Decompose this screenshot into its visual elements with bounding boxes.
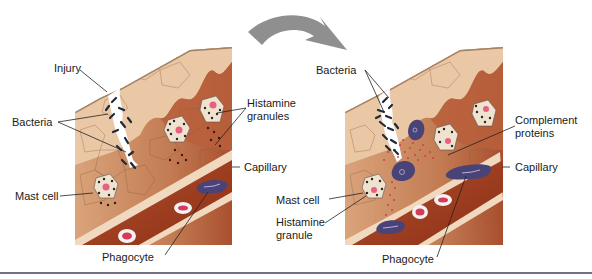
left-tissue-illustration bbox=[70, 40, 240, 250]
label-injury: Injury bbox=[54, 62, 81, 74]
label-phagocyte-left: Phagocyte bbox=[102, 251, 154, 263]
label-histamine-granule-2: granule bbox=[276, 229, 313, 241]
inflammation-diagram: Injury Bacteria Histamine granules Capil… bbox=[0, 0, 592, 279]
label-bacteria-left: Bacteria bbox=[12, 116, 52, 128]
label-mast-cell-left: Mast cell bbox=[15, 190, 58, 202]
label-histamine-granules-2: granules bbox=[247, 110, 289, 122]
label-histamine-granule-1: Histamine bbox=[276, 216, 325, 228]
curved-arrow-icon bbox=[248, 15, 347, 50]
label-complement-2: proteins bbox=[515, 127, 554, 139]
label-bacteria-right: Bacteria bbox=[316, 64, 356, 76]
label-capillary-left: Capillary bbox=[244, 161, 287, 173]
bottom-divider bbox=[0, 272, 592, 274]
label-histamine-granules-1: Histamine bbox=[247, 97, 296, 109]
label-complement-1: Complement bbox=[515, 114, 577, 126]
label-mast-cell-right: Mast cell bbox=[276, 194, 319, 206]
label-capillary-right: Capillary bbox=[515, 161, 558, 173]
label-phagocyte-right: Phagocyte bbox=[382, 253, 434, 265]
